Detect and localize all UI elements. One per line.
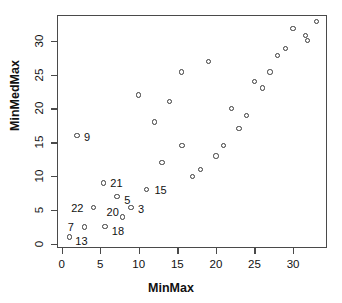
data-point (236, 126, 241, 131)
x-axis-tick-label: 30 (278, 258, 308, 270)
data-point (67, 234, 72, 239)
data-point (267, 69, 272, 74)
data-point-label: 15 (154, 185, 166, 196)
data-point (229, 106, 234, 111)
data-point-label: 22 (71, 203, 83, 214)
data-point (152, 119, 157, 124)
scatter-plot-figure: 1397222118520315 05101520253005101520253… (0, 0, 342, 303)
data-point (179, 69, 184, 74)
data-point (221, 143, 226, 148)
data-point (198, 167, 203, 172)
data-point (179, 143, 184, 148)
x-axis-tick (293, 248, 294, 254)
data-point-label: 18 (112, 226, 124, 237)
data-point (206, 59, 211, 64)
x-axis-tick-label: 15 (162, 258, 192, 270)
y-axis-tick-label: 20 (33, 93, 45, 123)
data-point (314, 19, 319, 24)
y-axis-tick-label: 25 (33, 60, 45, 90)
data-point (252, 79, 257, 84)
y-axis-tick (51, 142, 57, 143)
data-point (283, 46, 288, 51)
data-point (213, 153, 218, 158)
y-axis-tick (51, 75, 57, 76)
data-point (260, 85, 265, 90)
data-point (102, 224, 107, 229)
y-axis-tick-label: 0 (33, 229, 45, 259)
data-point (190, 174, 195, 179)
x-axis-tick (216, 248, 217, 254)
plot-data-area: 1397222118520315 (57, 15, 327, 248)
data-point (144, 187, 149, 192)
data-point (275, 53, 280, 58)
data-point-label: 13 (75, 236, 87, 247)
data-point-label: 20 (107, 207, 119, 218)
x-axis-tick-label: 25 (239, 258, 269, 270)
data-point (305, 38, 310, 43)
x-axis-label: MinMax (0, 281, 342, 295)
data-point (290, 26, 295, 31)
y-axis-label: MinMedMax (8, 60, 22, 131)
y-axis-tick (51, 41, 57, 42)
y-axis-tick (51, 176, 57, 177)
y-axis-tick-label: 15 (33, 127, 45, 157)
x-axis-tick-label: 0 (47, 258, 77, 270)
x-axis-tick (139, 248, 140, 254)
data-point-label: 7 (68, 222, 74, 233)
data-point-label: 9 (84, 132, 90, 143)
data-point (120, 214, 125, 219)
y-axis-tick-label: 10 (33, 161, 45, 191)
data-point (91, 205, 96, 210)
y-axis-tick (51, 210, 57, 211)
data-point-label: 21 (110, 178, 122, 189)
x-axis-tick (100, 248, 101, 254)
y-axis-tick-label: 5 (33, 195, 45, 225)
data-point (244, 113, 249, 118)
x-axis-tick-label: 5 (85, 258, 115, 270)
y-axis-tick (51, 244, 57, 245)
data-point (128, 205, 133, 210)
data-point-label: 5 (124, 195, 130, 206)
data-point (159, 160, 164, 165)
data-point (114, 194, 119, 199)
x-axis-tick (177, 248, 178, 254)
y-axis-tick-label: 30 (33, 26, 45, 56)
x-axis-tick-label: 10 (124, 258, 154, 270)
data-point-label: 3 (138, 204, 144, 215)
data-point (167, 99, 172, 104)
x-axis-tick-label: 20 (201, 258, 231, 270)
data-point (74, 133, 79, 138)
data-point (136, 92, 141, 97)
data-point (82, 224, 87, 229)
x-axis-tick (62, 248, 63, 254)
data-point (101, 180, 106, 185)
x-axis-tick (254, 248, 255, 254)
y-axis-tick (51, 108, 57, 109)
